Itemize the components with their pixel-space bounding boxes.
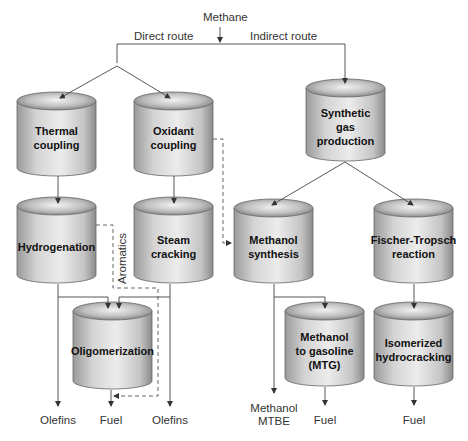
unit-methanol-to-gasoline: Methanol to gasoline (MTG)	[282, 327, 367, 375]
output-fuel-fischer-tropsch: Fuel	[394, 414, 434, 427]
unit-steam-cracking: Steam cracking	[134, 232, 213, 262]
output-fuel-oligomerization: Fuel	[91, 414, 131, 427]
source-label-methane: Methane	[203, 11, 248, 24]
unit-isomerized-hydrocracking: Isomerized hydrocracking	[370, 332, 457, 368]
indirect-route-label: Indirect route	[250, 30, 317, 43]
unit-thermal-coupling: Thermal coupling	[17, 118, 96, 158]
output-fuel-mtg: Fuel	[305, 414, 345, 427]
output-methanol-mtbe: Methanol MTBE	[244, 402, 304, 428]
output-olefins-left: Olefins	[35, 414, 81, 427]
unit-hydrogenation: Hydrogenation	[17, 232, 96, 262]
output-olefins-right: Olefins	[147, 414, 193, 427]
aromatics-label: Aromatics	[116, 233, 128, 284]
unit-fischer-tropsch: Fischer-Tropsch reaction	[370, 227, 457, 267]
unit-synthetic-gas-production: Synthetic gas production	[306, 103, 385, 151]
direct-route-label: Direct route	[134, 30, 193, 43]
unit-oxidant-coupling: Oxidant coupling	[134, 118, 213, 158]
unit-methanol-synthesis: Methanol synthesis	[234, 227, 313, 267]
unit-oligomerization: Oligomerization	[70, 336, 155, 366]
methane-conversion-diagram	[0, 0, 468, 441]
